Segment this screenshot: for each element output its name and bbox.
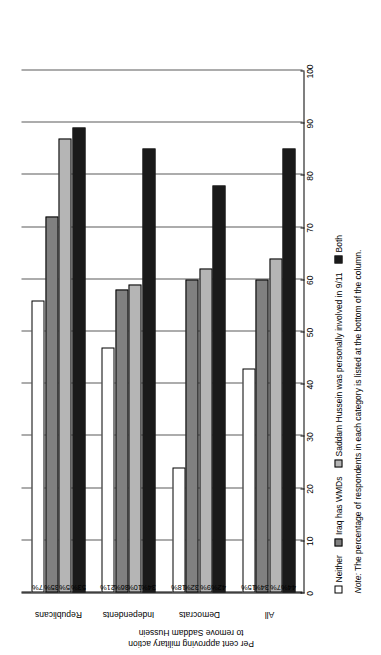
- bar-wmd-republicans[interactable]: [45, 216, 58, 592]
- bar-row: 15%: [242, 70, 255, 592]
- bar-row: 53%: [72, 70, 85, 592]
- bar-row: 5%: [58, 70, 71, 592]
- tick-label-0: 0: [304, 591, 314, 596]
- bar-both-all[interactable]: [282, 148, 295, 592]
- chart-note: Note: The percentage of respondents in e…: [352, 33, 362, 593]
- bar-neither-independents[interactable]: [101, 347, 114, 592]
- bar-both-republicans[interactable]: [72, 127, 85, 592]
- chart-legend: NeitherIraq has WMDsSaddam Hussein was p…: [330, 71, 346, 593]
- tick-label-70: 70: [304, 223, 314, 232]
- legend-label-wmd: Iraq has WMDs: [333, 476, 343, 535]
- tick-label-40: 40: [304, 379, 314, 388]
- tick-label-30: 30: [304, 432, 314, 441]
- bar-group-democrats: 18%32%9%42%Democrats: [172, 70, 226, 592]
- legend-item-wmd[interactable]: Iraq has WMDs: [333, 476, 343, 546]
- bar-row: 42%: [212, 70, 225, 592]
- bar-nine11-all[interactable]: [269, 258, 282, 592]
- bar-row: 18%: [172, 70, 185, 592]
- tick-label-90: 90: [304, 118, 314, 127]
- bar-neither-republicans[interactable]: [31, 300, 44, 592]
- bar-chart-figure: Per cent approving military action to re…: [0, 0, 381, 655]
- legend-item-both[interactable]: Both: [333, 234, 343, 263]
- bar-wmd-all[interactable]: [255, 279, 268, 592]
- note-text: The percentage of respondents in each ca…: [352, 249, 362, 573]
- y-axis-title: Per cent approving military action to re…: [0, 625, 381, 651]
- bar-row: 10%: [128, 70, 141, 592]
- bar-nine11-republicans[interactable]: [58, 138, 71, 592]
- bar-nine11-democrats[interactable]: [199, 268, 212, 592]
- bar-both-democrats[interactable]: [212, 185, 225, 592]
- bar-row: 7%: [31, 70, 44, 592]
- bar-row: 9%: [199, 70, 212, 592]
- y-axis-title-line1: Per cent approving military action: [128, 638, 254, 649]
- bar-group-independents: 21%36%10%34%Independents: [101, 70, 155, 592]
- value-axis-line: [303, 71, 304, 593]
- tick-label-100: 100: [304, 64, 314, 78]
- legend-swatch-nine11-icon: [334, 459, 342, 467]
- legend-item-neither[interactable]: Neither: [333, 555, 343, 593]
- bar-row: 21%: [101, 70, 114, 592]
- y-axis-title-line2: to remove Saddam Hussein: [128, 627, 254, 638]
- legend-label-both: Both: [333, 234, 343, 252]
- tick-label-60: 60: [304, 275, 314, 284]
- bar-wmd-democrats[interactable]: [185, 279, 198, 592]
- bar-neither-democrats[interactable]: [172, 467, 185, 592]
- legend-swatch-neither-icon: [334, 585, 342, 593]
- bar-row: 44%: [282, 70, 295, 592]
- bar-neither-all[interactable]: [242, 368, 255, 592]
- tick-label-20: 20: [304, 484, 314, 493]
- bar-row: 34%: [255, 70, 268, 592]
- note-lead: Note:: [352, 573, 362, 593]
- tick-label-50: 50: [304, 327, 314, 336]
- value-axis-ticks: 0102030405060708090100: [304, 71, 324, 593]
- bar-nine11-independents[interactable]: [128, 284, 141, 592]
- legend-item-nine11[interactable]: Saddam Hussein was personally involved i…: [333, 272, 343, 467]
- legend-label-neither: Neither: [333, 555, 343, 582]
- plot-area: 7%35%5%53%Republicans21%36%10%34%Indepen…: [21, 70, 302, 593]
- bar-wmd-independents[interactable]: [115, 289, 128, 592]
- tick-label-80: 80: [304, 171, 314, 180]
- chart-rotation-wrapper: Per cent approving military action to re…: [0, 0, 381, 655]
- bar-row: 32%: [185, 70, 198, 592]
- bar-row: 7%: [269, 70, 282, 592]
- bar-row: 35%: [45, 70, 58, 592]
- tick-label-10: 10: [304, 536, 314, 545]
- bar-both-independents[interactable]: [142, 148, 155, 592]
- legend-swatch-wmd-icon: [334, 538, 342, 546]
- bar-group-all: 15%34%7%44%All: [242, 70, 296, 592]
- legend-label-nine11: Saddam Hussein was personally involved i…: [333, 272, 343, 456]
- bar-row: 36%: [115, 70, 128, 592]
- bar-group-republicans: 7%35%5%53%Republicans: [31, 70, 85, 592]
- legend-swatch-both-icon: [334, 255, 342, 263]
- bar-row: 34%: [142, 70, 155, 592]
